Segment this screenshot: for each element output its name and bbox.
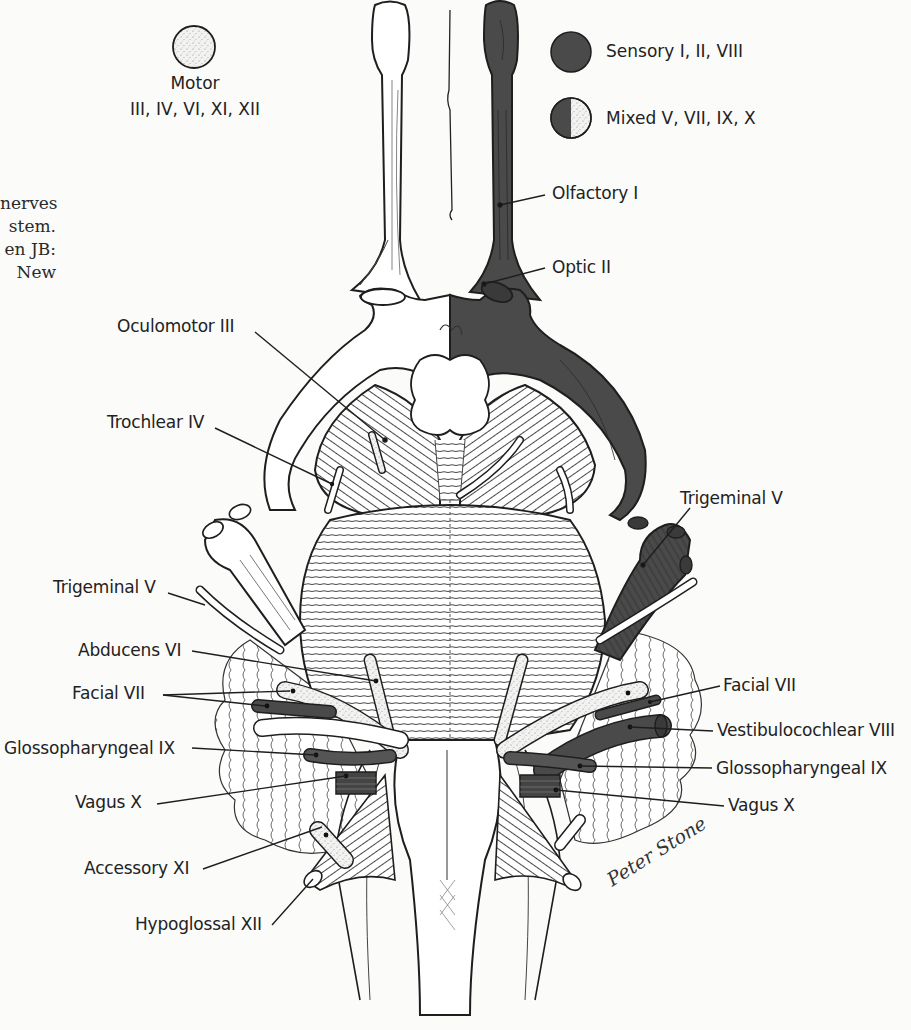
label-oculomotor: Oculomotor III: [117, 318, 234, 335]
olfactory-tract-left: [352, 2, 420, 301]
label-accessory: Accessory XI: [84, 860, 189, 877]
label-trochlear: Trochlear IV: [107, 414, 204, 431]
trigeminal-nerve-left: [200, 502, 305, 650]
label-glossopharyngeal-right: Glossopharyngeal IX: [716, 760, 887, 777]
legend-motor-nerves: III, IV, VI, XI, XII: [110, 101, 280, 118]
legend-mixed-swatch: [551, 98, 591, 138]
label-optic: Optic II: [552, 259, 611, 276]
label-abducens: Abducens VI: [78, 642, 181, 659]
cranial-nerves-diagram: nerves stem. en JB: New: [0, 0, 911, 1030]
label-trigeminal-right: Trigeminal V: [680, 490, 783, 507]
vagus-nerve-left: [336, 772, 376, 794]
legend-motor-title: Motor: [120, 75, 270, 92]
legend-sensory-label: Sensory I, II, VIII: [606, 43, 743, 60]
label-vestibulocochlear: Vestibulocochlear VIII: [717, 722, 895, 739]
mammillary-bodies: [411, 355, 489, 435]
label-glossopharyngeal-left: Glossopharyngeal IX: [4, 740, 175, 757]
legend-motor-swatch: [173, 26, 215, 68]
olfactory-tract-right: [470, 1, 540, 300]
glossopharyngeal-nerve-left: [310, 753, 390, 759]
glossopharyngeal-nerve-right: [510, 758, 590, 768]
longitudinal-fissure: [448, 10, 452, 220]
legend-sensory-swatch: [551, 32, 591, 72]
label-olfactory: Olfactory I: [552, 185, 638, 202]
label-trigeminal-left: Trigeminal V: [53, 579, 156, 596]
label-hypoglossal: Hypoglossal XII: [135, 916, 262, 933]
label-vagus-left: Vagus X: [75, 794, 142, 811]
legend-mixed-label: Mixed V, VII, IX, X: [606, 110, 756, 127]
label-vagus-right: Vagus X: [728, 797, 795, 814]
label-facial-right: Facial VII: [723, 677, 796, 694]
label-facial-left: Facial VII: [72, 685, 145, 702]
